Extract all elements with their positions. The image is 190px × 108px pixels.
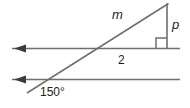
hypotenuse-label: m [112, 8, 123, 21]
arrow-left-icon [14, 76, 26, 84]
vertical-leg-label: p [172, 18, 179, 31]
right-angle-marker-icon [156, 38, 167, 48]
angle-measure-label: 150° [40, 86, 65, 98]
diagram-canvas [0, 0, 190, 108]
arrow-left-icon [14, 45, 26, 53]
geometry-diagram: m p 2 150° [0, 0, 190, 108]
base-length-label: 2 [118, 54, 125, 66]
